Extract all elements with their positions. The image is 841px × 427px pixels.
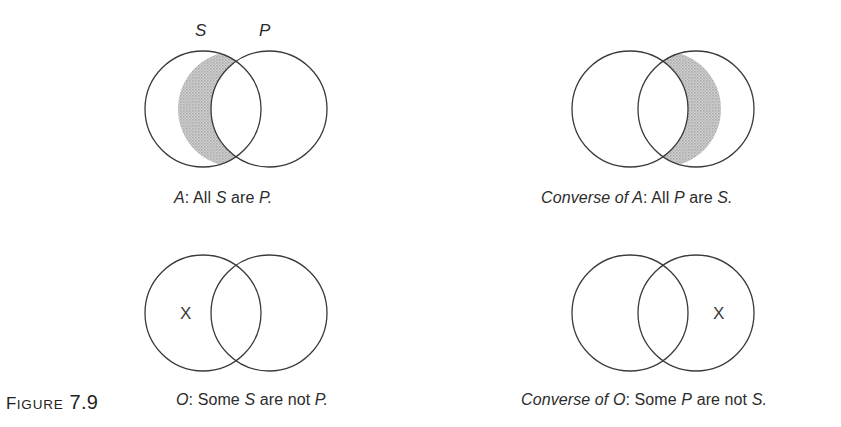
venn-diagram-converse-of-o bbox=[568, 253, 762, 375]
figure-label-initial: F bbox=[6, 394, 17, 413]
venn-svg-converse-of-o bbox=[568, 253, 762, 375]
caption-part: : Some bbox=[625, 391, 681, 408]
venn-diagram-some-s-are-not-p bbox=[141, 253, 335, 375]
venn-svg-some-s-are-not-p bbox=[141, 253, 335, 375]
caption-part: P. bbox=[259, 189, 272, 206]
caption-part: S. bbox=[717, 189, 732, 206]
caption-part: S. bbox=[752, 391, 767, 408]
caption-part: are bbox=[685, 189, 718, 206]
circle-p bbox=[211, 51, 327, 167]
x-mark-left-only: X bbox=[180, 305, 191, 322]
caption-all-s-are-p: A: All S are P. bbox=[174, 190, 272, 206]
label-s: S bbox=[195, 22, 207, 39]
caption-converse-of-o: Converse of O: Some P are not S. bbox=[521, 392, 767, 408]
caption-part: : Some bbox=[189, 391, 245, 408]
venn-svg-all-s-are-p bbox=[141, 47, 335, 175]
figure-label: FIGURE7.9 bbox=[6, 391, 98, 414]
figure-label-word: IGURE bbox=[17, 397, 64, 412]
figure-page: S P A: All S are P. Converse of A: All P… bbox=[0, 0, 841, 427]
caption-part: Converse of A bbox=[541, 189, 643, 206]
venn-diagram-converse-of-a bbox=[568, 47, 762, 175]
caption-part: : All bbox=[185, 189, 216, 206]
caption-part: are not bbox=[255, 391, 315, 408]
circle-s bbox=[572, 51, 688, 167]
caption-part: are not bbox=[692, 391, 752, 408]
caption-part: P bbox=[674, 189, 685, 206]
x-mark-right-only: X bbox=[713, 305, 724, 322]
circle-p bbox=[211, 255, 327, 371]
figure-number: 7.9 bbox=[70, 391, 98, 413]
caption-converse-of-a: Converse of A: All P are S. bbox=[541, 190, 733, 206]
caption-part: A bbox=[174, 189, 185, 206]
caption-part: S bbox=[244, 391, 255, 408]
caption-part: P bbox=[681, 391, 692, 408]
circle-s bbox=[145, 255, 261, 371]
caption-part: S bbox=[216, 189, 227, 206]
label-p: P bbox=[259, 22, 271, 39]
caption-part: P. bbox=[315, 391, 328, 408]
shaded-region-left-only bbox=[178, 51, 327, 167]
caption-part: O bbox=[176, 391, 189, 408]
shaded-region-right-only bbox=[572, 51, 721, 167]
circle-s bbox=[572, 255, 688, 371]
caption-part: Converse of O bbox=[521, 391, 625, 408]
caption-part: : All bbox=[643, 189, 674, 206]
venn-svg-converse-of-a bbox=[568, 47, 762, 175]
venn-diagram-all-s-are-p bbox=[141, 47, 335, 175]
caption-some-s-are-not-p: O: Some S are not P. bbox=[176, 392, 328, 408]
caption-part: are bbox=[226, 189, 259, 206]
circle-p bbox=[638, 255, 754, 371]
